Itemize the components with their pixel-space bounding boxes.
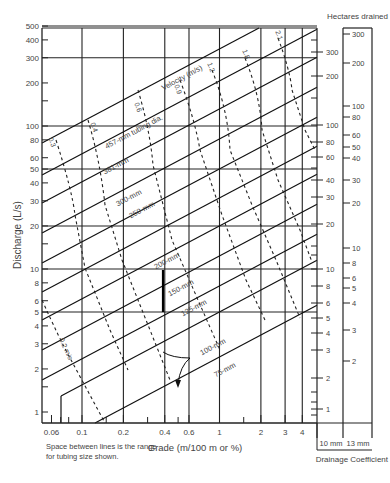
x-tick-label: 4 xyxy=(300,428,305,437)
tubing-boundary-line xyxy=(42,29,317,175)
scale-10mm-label: 20 xyxy=(326,220,334,229)
y-tick-label: 60 xyxy=(30,154,39,163)
tubing-size-label: 75-mm xyxy=(212,360,237,379)
scale-13mm-label: 30 xyxy=(352,176,360,185)
velocity-dashed-line xyxy=(212,70,300,318)
scale-13mm-label: 2 xyxy=(352,357,356,366)
footnote-line-1: Space between lines is the range xyxy=(46,442,157,452)
y-tick-label: 80 xyxy=(30,136,39,145)
scale-10mm-label: 8 xyxy=(326,282,330,291)
scale-10mm-label: 30 xyxy=(326,193,334,202)
velocity-dashed-line xyxy=(42,300,105,423)
tubing-boundary-line xyxy=(95,305,317,423)
x-tick-label: 0.2 xyxy=(118,428,130,437)
tubing-size-label: 457-mm tubing dia. xyxy=(103,113,164,151)
scale-13mm-label: 6 xyxy=(352,274,356,283)
scale-13mm-label: 10 xyxy=(352,244,360,253)
scale-10mm-label: 40 xyxy=(326,176,334,185)
scale-13mm-label: 5 xyxy=(352,284,356,293)
y-tick-label: 30 xyxy=(30,197,39,206)
hectares-drained-title: Hectares drained xyxy=(327,12,388,21)
tubing-boundary-line xyxy=(42,87,317,233)
scale-13mm-label: 40 xyxy=(352,154,360,163)
y-axis-label: Discharge (L/s) xyxy=(12,201,23,269)
scale-10mm-label: 60 xyxy=(326,153,334,162)
scale-13mm-label: 80 xyxy=(352,113,360,122)
y-tick-label: 10 xyxy=(30,265,39,274)
y-tick-label: 50 xyxy=(30,165,39,174)
x-tick-label: 0.4 xyxy=(159,428,171,437)
scale-13mm-label: 13 mm xyxy=(347,439,370,448)
tubing-size-label: 381-mm xyxy=(102,155,131,176)
scale-10mm-label: 80 xyxy=(326,138,334,147)
scale-10mm-label: 10 mm xyxy=(320,439,343,448)
x-tick-label: 0.06 xyxy=(44,428,60,437)
y-tick-label: 20 xyxy=(30,222,39,231)
y-tick-label: 100 xyxy=(26,122,40,131)
velocity-dashed-line xyxy=(88,120,170,380)
tubing-size-label: 125-mm xyxy=(180,297,209,318)
y-tick-label: 1 xyxy=(35,408,40,417)
y-tick-label: 300 xyxy=(26,54,40,63)
scale-13mm-label: 20 xyxy=(352,199,360,208)
scale-10mm-label: 3 xyxy=(326,346,330,355)
scale-10mm-label: 5 xyxy=(326,314,330,323)
x-tick-label: 1 xyxy=(217,428,222,437)
velocity-label: 0.4 xyxy=(89,121,99,133)
x-tick-label: 0.1 xyxy=(76,428,88,437)
scale-10mm-label: 200 xyxy=(326,72,339,81)
scale-13mm-label: 60 xyxy=(352,131,360,140)
scale-10mm-label: 100 xyxy=(326,121,339,130)
scale-10mm-label: 6 xyxy=(326,299,330,308)
x-axis-label: Grade (m/100 m or %) xyxy=(148,442,243,453)
y-tick-label: 400 xyxy=(26,36,40,45)
tubing-boundary-line xyxy=(42,146,317,292)
footnote-line-2: for tubing size shown. xyxy=(46,452,157,462)
scale-13mm-label: 50 xyxy=(352,143,360,152)
tubing-size-label: 300-mm xyxy=(115,187,144,208)
velocity-label: 2.1 xyxy=(274,29,284,41)
y-tick-label: 2 xyxy=(35,365,40,374)
velocity-dashed-line xyxy=(278,38,315,150)
scale-13mm-label: 8 xyxy=(352,259,356,268)
footnote: Space between lines is the range for tub… xyxy=(46,442,157,462)
scale-10mm-label: 300 xyxy=(326,48,339,57)
velocity-dashed-line xyxy=(56,140,128,370)
tubing-size-label: 100-mm xyxy=(199,336,228,357)
x-tick-label: 0.6 xyxy=(183,428,195,437)
arrowhead-icon xyxy=(175,380,181,388)
x-tick-label: 2 xyxy=(259,428,264,437)
velocity-label: 0.3 xyxy=(47,136,57,148)
scale-13mm-label: 100 xyxy=(352,102,365,111)
scale-13mm-label: 3 xyxy=(352,326,356,335)
nomograph-chart: 5004003002001008060504030201086543210.06… xyxy=(0,0,390,483)
tubing-boundary-line xyxy=(42,117,317,263)
tubing-size-label: 250-mm xyxy=(128,199,157,220)
right-scales: 3002001008060403020108654321300200100806… xyxy=(311,28,372,450)
scale-10mm-label: 4 xyxy=(326,329,330,338)
y-tick-label: 3 xyxy=(35,340,40,349)
tubing-size-label: 150-mm xyxy=(167,277,196,298)
example-arrow-curve xyxy=(163,352,190,358)
scale-10mm-label: 1 xyxy=(326,405,330,414)
y-tick-label: 5 xyxy=(35,308,40,317)
y-tick-label: 6 xyxy=(35,297,40,306)
scale-10mm-label: 10 xyxy=(326,265,334,274)
velocity-label: 0.2 m/s xyxy=(58,337,74,361)
y-tick-label: 200 xyxy=(26,79,40,88)
y-tick-label: 500 xyxy=(26,22,40,31)
tubing-boundary-line xyxy=(42,174,317,320)
scale-13mm-label: 300 xyxy=(352,30,365,39)
scale-13mm-label: 200 xyxy=(352,59,365,68)
y-tick-label: 8 xyxy=(35,279,40,288)
y-tick-label: 40 xyxy=(30,179,39,188)
scale-10mm-label: 2 xyxy=(326,374,330,383)
velocity-label: 1.2 xyxy=(206,61,216,73)
x-tick-label: 3 xyxy=(283,428,288,437)
y-tick-label: 4 xyxy=(35,322,40,331)
velocity-lines xyxy=(42,38,315,423)
drainage-coefficient-label: Drainage Coefficient xyxy=(316,455,389,464)
scale-13mm-label: 4 xyxy=(352,299,356,308)
